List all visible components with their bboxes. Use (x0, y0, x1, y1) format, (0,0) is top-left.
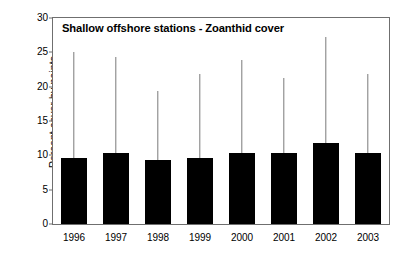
error-bar (367, 74, 368, 153)
bars-layer (53, 18, 389, 224)
x-tick-label: 1998 (147, 232, 169, 243)
bar (61, 158, 87, 224)
y-tick-mark (49, 86, 53, 87)
chart-title: Shallow offshore stations - Zoanthid cov… (62, 22, 284, 34)
y-tick-mark (49, 121, 53, 122)
y-tick-mark (49, 189, 53, 190)
bar-group (305, 18, 347, 224)
x-tick-label: 2000 (231, 232, 253, 243)
bar-group (137, 18, 179, 224)
bar (313, 143, 339, 224)
bar (355, 153, 381, 224)
y-tick-mark (49, 155, 53, 156)
error-bar (241, 60, 242, 153)
bar (187, 158, 213, 224)
error-bar (157, 91, 158, 160)
x-tick-label: 1999 (189, 232, 211, 243)
error-bar (325, 37, 326, 143)
y-tick-mark (49, 224, 53, 225)
bar (103, 153, 129, 224)
bar-group (179, 18, 221, 224)
x-tick-label: 1996 (63, 232, 85, 243)
plot-area: 051015202530 (52, 17, 390, 225)
bar-group (53, 18, 95, 224)
bar-group (95, 18, 137, 224)
error-bar (73, 52, 74, 158)
bar (271, 153, 297, 224)
x-tick-label: 2001 (273, 232, 295, 243)
bar (145, 160, 171, 224)
x-tick-label: 2003 (357, 232, 379, 243)
y-tick-mark (49, 52, 53, 53)
x-tick-label: 2002 (315, 232, 337, 243)
x-tick-label: 1997 (105, 232, 127, 243)
chart-figure: Percent cover by points 051015202530 Sha… (0, 0, 420, 266)
error-bar (115, 57, 116, 152)
y-tick-mark (49, 18, 53, 19)
bar-group (221, 18, 263, 224)
error-bar (283, 78, 284, 153)
bar-group (263, 18, 305, 224)
bar (229, 153, 255, 224)
error-bar (199, 74, 200, 158)
bar-group (347, 18, 389, 224)
